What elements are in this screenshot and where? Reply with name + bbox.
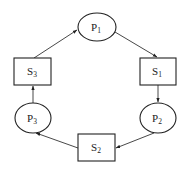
edge-p2-s2: [116, 133, 154, 148]
node-subscript: 3: [33, 117, 37, 126]
node-p2: P2: [140, 103, 176, 133]
edge-s3-p1: [34, 30, 77, 58]
node-s1: S1: [140, 58, 176, 85]
node-subscript: 2: [97, 146, 101, 155]
edge-p1-s1: [115, 32, 157, 57]
node-subscript: 3: [33, 70, 37, 79]
diagram-canvas: P1 S1 P2 S2 P3 S3: [0, 0, 189, 174]
node-subscript: 2: [158, 117, 162, 126]
node-s3: S3: [14, 58, 51, 85]
node-p3: P3: [15, 103, 51, 133]
edge-s2-p3: [36, 133, 78, 148]
cycle-diagram: P1 S1 P2 S2 P3 S3: [0, 0, 189, 174]
node-subscript: 1: [158, 70, 162, 79]
node-s2: S2: [78, 134, 115, 161]
node-p1: P1: [78, 13, 116, 41]
node-subscript: 1: [97, 26, 101, 35]
